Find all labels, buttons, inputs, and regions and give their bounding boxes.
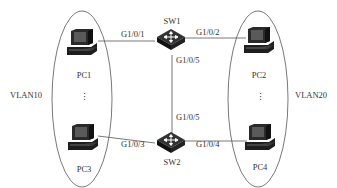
- more-pcs-ellipsis-vlan20: ⋮: [256, 92, 265, 102]
- computer-icon: [67, 29, 97, 55]
- pc-pc2[interactable]: PC2: [244, 27, 274, 80]
- vlan10-label: VLAN10: [10, 90, 42, 100]
- switch-icon: [157, 29, 185, 50]
- more-pcs-ellipsis-vlan10: ⋮: [80, 92, 89, 102]
- pc-label: PC3: [77, 164, 92, 174]
- computer-icon: [245, 124, 275, 150]
- port-label-sw1-g1-0-5: G1/0/5: [176, 55, 200, 65]
- port-label-sw2-g1-0-4: G1/0/4: [196, 139, 220, 149]
- pc-pc1[interactable]: PC1: [67, 29, 97, 80]
- computer-icon: [244, 27, 274, 53]
- port-label-sw2-g1-0-5: G1/0/5: [176, 112, 200, 122]
- port-label-sw2-g1-0-3: G1/0/3: [121, 139, 145, 149]
- computer-icon: [68, 124, 98, 150]
- pc-pc3[interactable]: PC3: [68, 124, 98, 174]
- switch-label: SW2: [164, 157, 181, 167]
- pc-label: PC4: [253, 162, 268, 172]
- network-topology-diagram: SW1 SW2 PC1 PC2 PC3 PC4 ⋮ ⋮ G1/0/1 G1/0/…: [0, 0, 337, 188]
- pc-label: PC2: [252, 70, 267, 80]
- port-label-sw1-g1-0-2: G1/0/2: [196, 27, 220, 37]
- vlan20-label: VLAN20: [295, 90, 327, 100]
- switch-icon: [157, 132, 185, 153]
- port-label-sw1-g1-0-1: G1/0/1: [121, 29, 145, 39]
- switch-sw1[interactable]: SW1: [157, 16, 185, 50]
- pc-pc4[interactable]: PC4: [245, 124, 275, 172]
- pc-label: PC1: [77, 70, 92, 80]
- switch-label: SW1: [164, 16, 181, 26]
- switch-sw2[interactable]: SW2: [157, 132, 185, 167]
